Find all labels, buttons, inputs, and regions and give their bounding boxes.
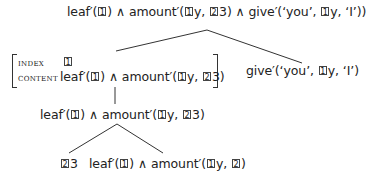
text: give′(‘you’, [246,63,318,78]
text: ) ∧ amount′( [80,107,157,122]
tag-box: 2 [210,7,218,16]
edge-root-to-avm [116,30,207,51]
leaf-left-node: 23 [60,157,78,171]
text: y, ‘I’)) [330,4,366,19]
mid-node: leaf′(1) ∧ amount′(1y, 23) [40,108,205,122]
edge-mid-to-leaf-left [69,124,117,153]
text: y, ‘I’) [328,63,359,78]
text: leaf′( [67,4,97,19]
tag-box: 1 [120,159,128,168]
edge-root-to-give [207,30,302,63]
tag-box: 1 [98,7,106,16]
text: y, [216,156,231,171]
text: ) ∧ amount′( [100,69,177,84]
tag-box: 2 [183,110,191,119]
tag-box: 1 [158,110,166,119]
text: ) [241,156,246,171]
avm-index-row: index 1 [18,55,73,70]
text: leaf′( [89,156,119,171]
text: 3 [70,156,78,171]
text: ) ∧ amount′( [129,156,206,171]
give-node: give′(‘you’, 1y, ‘I’) [246,64,359,78]
tag-box: 1 [64,57,72,66]
avm-index-label: index [18,57,44,68]
text: y, [167,107,182,122]
edge-mid-to-leaf-right [117,124,163,153]
leaf-right-node: leaf′(1) ∧ amount′(1y, 2) [89,157,246,171]
tag-box: 2 [61,159,69,168]
tag-box: 1 [71,110,79,119]
tag-box: 1 [91,72,99,81]
avm-left-bracket [12,54,17,88]
text: ) ∧ amount′( [107,4,184,19]
text: y, [187,69,202,84]
text: 3) ∧ give′(‘you’, [219,4,320,19]
text: leaf′( [60,69,90,84]
tag-box: 1 [321,7,329,16]
avm-content-label: content [18,72,58,83]
avm-content-row: contentleaf′(1) ∧ amount′(1y, 23) [18,70,225,85]
tag-box: 1 [207,159,215,168]
text: 3) [212,69,225,84]
tag-box: 2 [232,159,240,168]
tag-box: 1 [185,7,193,16]
tag-box: 2 [203,72,211,81]
text: leaf′( [40,107,70,122]
tag-box: 1 [319,66,327,75]
root-node: leaf′(1) ∧ amount′(1y, 23) ∧ give′(‘you’… [67,5,366,19]
tag-box: 1 [178,72,186,81]
text: 3) [192,107,205,122]
text: y, [194,4,209,19]
